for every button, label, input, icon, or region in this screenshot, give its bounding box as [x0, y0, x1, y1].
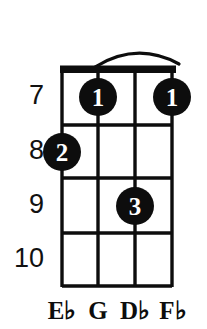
flat-icon: ♭	[138, 297, 150, 324]
headstock-arc-icon	[95, 53, 179, 67]
finger-dot-1a: 1	[79, 78, 117, 116]
finger-dot-label: 1	[92, 84, 105, 111]
finger-dot-3: 3	[116, 187, 154, 225]
string-label-letter: F	[159, 297, 174, 324]
string-label-letter: E	[48, 297, 65, 324]
finger-dot-label: 1	[166, 84, 179, 111]
nut-bar	[60, 66, 176, 74]
fretboard-graphic: 1 1 2 3	[0, 0, 207, 329]
finger-dot-1b: 1	[153, 78, 191, 116]
string-label-2: G	[80, 298, 116, 323]
finger-dot-label: 2	[56, 139, 69, 166]
string-label-3: D♭	[115, 298, 155, 323]
flat-icon: ♭	[175, 297, 187, 324]
string-label-1: E♭	[42, 298, 82, 323]
string-label-4: F♭	[153, 298, 193, 323]
string-label-letter: D	[120, 297, 138, 324]
chord-diagram: 7 8 9 10 1 1 2 3	[0, 0, 207, 329]
string-label-letter: G	[88, 297, 107, 324]
finger-dot-2: 2	[43, 133, 81, 171]
finger-dot-label: 3	[129, 193, 142, 220]
flat-icon: ♭	[64, 297, 76, 324]
